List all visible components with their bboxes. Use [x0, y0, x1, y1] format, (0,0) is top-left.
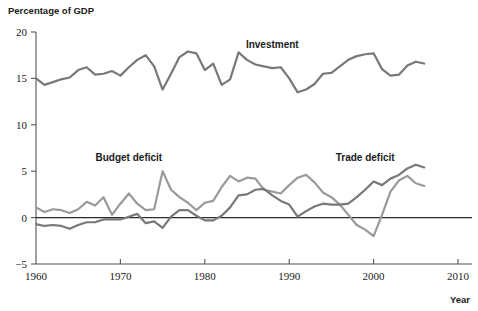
y-tick-label: 15 — [16, 72, 28, 84]
series-label-budget-deficit: Budget deficit — [96, 152, 163, 163]
x-tick-label: 1970 — [109, 270, 132, 282]
line-chart: −505101520 196019701980199020002010 Perc… — [0, 0, 478, 311]
y-tick-label: 10 — [16, 119, 28, 131]
x-tick-label: 1980 — [194, 270, 217, 282]
x-axis-title: Year — [450, 294, 470, 305]
y-tick-label: 20 — [16, 26, 28, 38]
x-tick-label: 2010 — [447, 270, 470, 282]
series-line-budget-deficit — [36, 171, 424, 236]
series-group — [36, 51, 424, 236]
x-tick-label: 1960 — [25, 270, 48, 282]
y-tick-label: −5 — [15, 258, 27, 270]
y-axis-title: Percentage of GDP — [8, 5, 95, 16]
series-label-investment: Investment — [246, 39, 299, 50]
y-tick-labels: −505101520 — [15, 26, 27, 270]
series-line-investment — [36, 51, 424, 92]
series-label-trade-deficit: Trade deficit — [336, 152, 396, 163]
x-axis-ticks — [120, 259, 458, 264]
x-tick-label: 2000 — [363, 270, 386, 282]
y-tick-label: 5 — [22, 165, 28, 177]
series-line-trade-deficit — [36, 165, 424, 229]
x-tick-labels: 196019701980199020002010 — [25, 270, 470, 282]
y-axis-ticks — [31, 32, 36, 264]
y-tick-label: 0 — [22, 212, 28, 224]
chart-container: −505101520 196019701980199020002010 Perc… — [0, 0, 478, 311]
x-tick-label: 1990 — [278, 270, 301, 282]
